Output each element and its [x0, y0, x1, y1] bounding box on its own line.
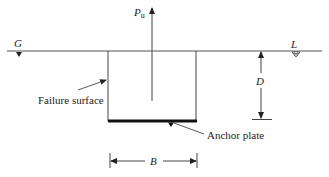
failure-surface-leader [78, 80, 106, 90]
ground-marker-left-icon [16, 52, 22, 57]
plate-marker-icon [168, 123, 174, 128]
ground-label-g: G [14, 37, 22, 49]
failure-surface-label: Failure surface [38, 94, 104, 106]
ground-marker-right-icon [292, 52, 300, 57]
load-label: Pu [133, 6, 145, 20]
anchor-plate-label: Anchor plate [207, 129, 264, 141]
depth-label: D [255, 75, 264, 87]
width-label: B [150, 155, 157, 167]
ground-label-l: L [290, 38, 297, 50]
anchor-plate-diagram: G L Pu Failure surface Anchor plate D B [0, 0, 329, 177]
anchor-plate-leader [174, 123, 204, 134]
